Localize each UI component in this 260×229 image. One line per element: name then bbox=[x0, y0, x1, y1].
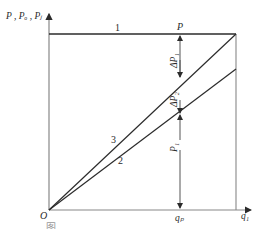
delta-p1-label: ΔP₁ bbox=[169, 53, 179, 69]
qp-label: qₚ bbox=[175, 213, 185, 223]
figure-caption: 图 … … … bbox=[46, 222, 96, 229]
line-3-label: 3 bbox=[111, 134, 116, 145]
top-point-label: P bbox=[176, 21, 183, 32]
line-2 bbox=[49, 69, 236, 210]
line-2-label: 2 bbox=[118, 155, 123, 166]
line-1-label: 1 bbox=[115, 22, 120, 33]
q1-label: q₁ bbox=[241, 211, 249, 221]
p1-label: P₁ bbox=[169, 143, 179, 153]
origin-label: O bbox=[40, 210, 47, 221]
line-3 bbox=[49, 34, 236, 210]
delta-p2-label: ΔP₂ bbox=[169, 92, 179, 108]
y-axis-label: P , Pₒ , Pⱼ bbox=[5, 11, 43, 21]
characteristic-diagram: P , Pₒ , Pⱼ P 1 3 2 ΔP₁ ΔP₂ P₁ O qₚ q₁ 图… bbox=[0, 0, 260, 229]
